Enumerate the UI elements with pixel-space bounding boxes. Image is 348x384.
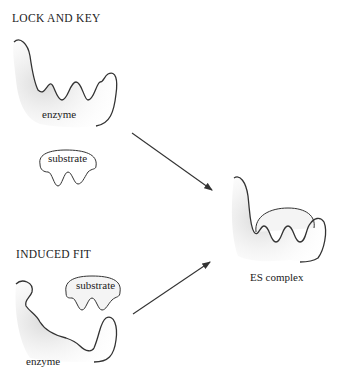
es-complex-label: ES complex <box>250 271 303 283</box>
es-complex-shape <box>232 177 326 262</box>
diagram-graphics <box>0 0 348 384</box>
lock-key-enzyme-label: enzyme <box>42 108 76 120</box>
lock-key-substrate-label: substrate <box>48 152 87 164</box>
arrow-lock-to-complex <box>132 133 212 190</box>
lock-and-key-title: LOCK AND KEY <box>12 12 101 24</box>
diagram: LOCK AND KEY enzyme substrate INDUCED FI… <box>0 0 348 384</box>
induced-fit-enzyme-label: enzyme <box>26 355 60 367</box>
arrow-induced-to-complex <box>133 262 210 314</box>
induced-fit-title: INDUCED FIT <box>16 248 91 260</box>
induced-fit-substrate-label: substrate <box>76 279 115 291</box>
